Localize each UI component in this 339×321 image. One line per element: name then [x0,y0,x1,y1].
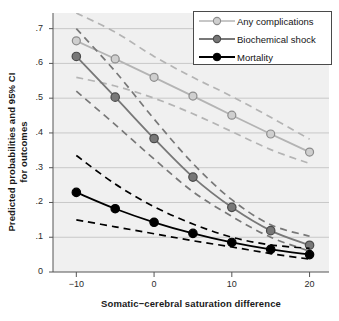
legend-item-mortality[interactable]: Mortality [194,48,331,66]
legend-item-any-complications[interactable]: Any complications [194,12,331,30]
data-point-marker [150,73,158,81]
y-tick-label: .5 [21,92,43,102]
data-point-marker [111,55,119,63]
data-point-marker [189,229,197,237]
x-tick-label: −10 [61,279,91,289]
y-tick-label: .7 [21,23,43,33]
data-point-marker [228,238,236,246]
chart-legend: Any complications Biochemical shock Mort… [193,11,332,65]
legend-item-biochemical-shock[interactable]: Biochemical shock [194,30,331,48]
data-point-marker [72,37,80,45]
legend-label-any-complications: Any complications [237,16,314,27]
x-axis-title: Somatic−cerebral saturation difference [53,298,329,309]
data-point-marker [306,148,314,156]
data-point-marker [189,173,197,181]
legend-swatch-any-complications [199,12,235,30]
x-tick-label: 0 [139,279,169,289]
y-tick-label: 0 [21,266,43,276]
data-point-marker [266,245,274,253]
data-point-marker [72,188,80,196]
y-axis-title-line-1: Predicted probabilities and 95% CI [6,52,18,252]
data-point-marker [266,226,274,234]
y-tick-label: .3 [21,162,43,172]
data-point-marker [111,93,119,101]
legend-label-biochemical-shock: Biochemical shock [237,34,316,45]
y-axis-title-line-2: for outcomes [18,52,30,252]
chart-figure: Predicted probabilities and 95% CI for o… [0,0,339,321]
legend-label-mortality: Mortality [237,52,273,63]
data-point-marker [189,92,197,100]
data-point-marker [150,134,158,142]
data-point-marker [72,52,80,60]
data-point-marker [267,130,275,138]
data-point-marker [150,218,158,226]
legend-swatch-mortality [199,48,235,66]
y-tick-label: .1 [21,231,43,241]
y-tick-label: .4 [21,127,43,137]
y-tick-label: .6 [21,57,43,67]
legend-swatch-biochemical-shock [199,30,235,48]
data-point-marker [228,203,236,211]
x-tick-label: 10 [217,279,247,289]
data-point-marker [228,111,236,119]
data-point-marker [305,250,313,258]
y-tick-label: .2 [21,196,43,206]
data-point-marker [111,205,119,213]
x-tick-label: 20 [295,279,325,289]
y-axis-title: Predicted probabilities and 95% CI for o… [6,52,30,252]
